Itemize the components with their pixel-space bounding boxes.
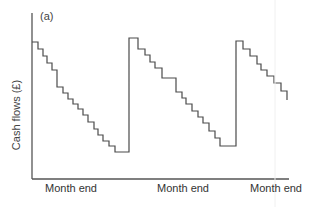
x-tick-label: Month end <box>45 182 97 194</box>
y-axis-label: Cash flows (£) <box>10 80 22 150</box>
cash-flow-step-line <box>32 38 287 152</box>
x-tick-label: Month end <box>250 182 302 194</box>
panel-label: (a) <box>40 10 53 22</box>
chart-canvas <box>0 0 314 207</box>
x-tick-label: Month end <box>157 182 209 194</box>
